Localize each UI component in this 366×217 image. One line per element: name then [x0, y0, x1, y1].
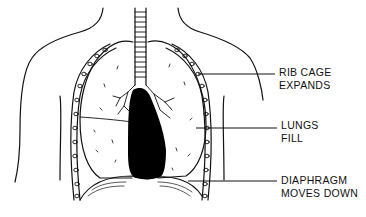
label-rib-cage-line1: RIB CAGE [279, 66, 332, 79]
label-lungs-line1: LUNGS [281, 119, 319, 132]
label-rib-cage-expands: RIB CAGE EXPANDS [279, 66, 332, 91]
label-diaphragm-line2: MOVES DOWN [281, 187, 358, 200]
diaphragm [80, 176, 202, 200]
label-diaphragm-moves-down: DIAPHRAGM MOVES DOWN [281, 174, 358, 199]
label-lungs-fill: LUNGS FILL [281, 119, 319, 144]
label-rib-cage-line2: EXPANDS [279, 79, 332, 92]
heart [128, 88, 166, 179]
trachea [135, 8, 146, 85]
label-diaphragm-line1: DIAPHRAGM [281, 174, 358, 187]
label-lungs-line2: FILL [281, 132, 319, 145]
